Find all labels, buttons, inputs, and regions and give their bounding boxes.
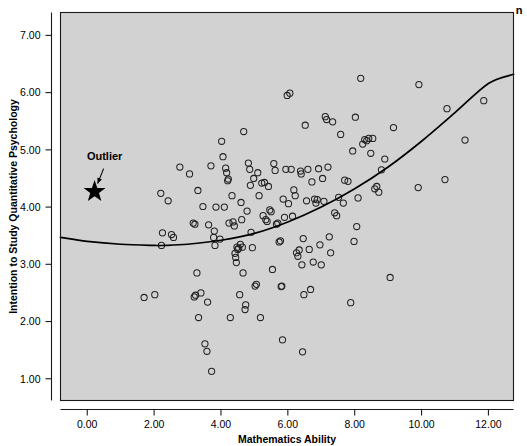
y-axis-tick-label: 7.00 (20, 29, 41, 41)
x-axis-tick-label: 4.00 (211, 418, 232, 430)
y-axis-tick-label: 4.00 (20, 201, 41, 213)
y-axis-tick-label: 3.00 (20, 258, 41, 270)
x-axis: 0.002.004.006.008.0010.0012.00 (61, 410, 514, 430)
x-axis-tick-label: 0.00 (77, 418, 98, 430)
outlier-annotation-label: Outlier (87, 150, 123, 162)
y-axis-tick-label: 2.00 (20, 315, 41, 327)
scatter-chart: 0.002.004.006.008.0010.0012.00 1.002.003… (0, 0, 527, 446)
y-axis-tick-label: 1.00 (20, 373, 41, 385)
x-axis-tick-label: 2.00 (144, 418, 165, 430)
x-axis-tick-label: 12.00 (475, 418, 501, 430)
x-axis-tick-label: 6.00 (278, 418, 299, 430)
x-axis-title: Mathematics Ability (238, 433, 336, 445)
y-axis: 1.002.003.004.005.006.007.00 (20, 13, 51, 401)
figure-container: 0.002.004.006.008.0010.0012.00 1.002.003… (0, 0, 527, 446)
corner-mark-n: n (516, 4, 523, 16)
x-axis-tick-label: 8.00 (344, 418, 365, 430)
y-axis-tick-label: 6.00 (20, 86, 41, 98)
x-axis-tick-label: 10.00 (408, 418, 434, 430)
y-axis-title: Intention to Study Quantitative Psycholo… (7, 99, 19, 314)
y-axis-tick-label: 5.00 (20, 144, 41, 156)
